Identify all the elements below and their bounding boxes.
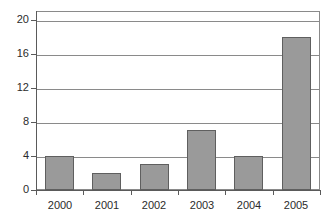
- x-axis-tick: [131, 190, 132, 195]
- y-axis-tick-label: 4: [0, 150, 29, 161]
- y-axis-tick-label: 20: [0, 14, 29, 25]
- y-axis-tick-label: 0: [0, 184, 29, 195]
- y-axis-line: [36, 11, 37, 191]
- x-axis-tick-label: 2005: [284, 200, 308, 211]
- x-axis-tick: [273, 190, 274, 195]
- y-axis-tick: [31, 88, 36, 89]
- x-axis-tick-label: 2000: [48, 200, 72, 211]
- y-axis-tick: [31, 20, 36, 21]
- plot-area: [36, 11, 320, 190]
- gridline: [36, 55, 319, 56]
- gridline: [36, 157, 319, 158]
- bar: [282, 37, 311, 190]
- gridline: [36, 21, 319, 22]
- x-axis-tick: [225, 190, 226, 195]
- x-axis-tick: [178, 190, 179, 195]
- bar-chart-figure: 048121620 200020012002200320042005: [0, 0, 331, 222]
- bar: [187, 130, 216, 190]
- y-axis-tick: [31, 122, 36, 123]
- bar: [234, 156, 263, 190]
- bar: [92, 173, 121, 190]
- bar: [140, 164, 169, 190]
- bar: [45, 156, 74, 190]
- gridline: [36, 123, 319, 124]
- x-axis-tick: [83, 190, 84, 195]
- x-axis-tick-label: 2001: [95, 200, 119, 211]
- y-axis-tick-label: 8: [0, 116, 29, 127]
- x-axis-tick-label: 2003: [190, 200, 214, 211]
- x-axis-tick-label: 2002: [142, 200, 166, 211]
- x-axis-tick: [320, 190, 321, 195]
- x-axis-tick-label: 2004: [237, 200, 261, 211]
- y-axis-tick: [31, 54, 36, 55]
- y-axis-tick-label: 16: [0, 48, 29, 59]
- gridline: [36, 89, 319, 90]
- y-axis-tick-label: 12: [0, 82, 29, 93]
- y-axis-tick: [31, 156, 36, 157]
- x-axis-tick: [36, 190, 37, 195]
